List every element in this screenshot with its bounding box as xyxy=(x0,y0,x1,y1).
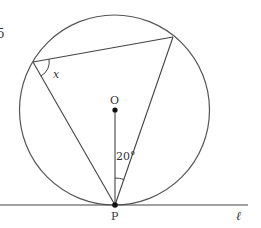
center-point-o xyxy=(112,107,117,112)
chord-left-p xyxy=(33,62,115,205)
tangent-point-p xyxy=(112,202,118,208)
angle-x-arc xyxy=(41,59,49,76)
line-label-l: ℓ xyxy=(236,209,241,223)
angle-x-label: x xyxy=(53,68,60,81)
angle-20-arc xyxy=(115,178,124,180)
angle-20-label: 20° xyxy=(116,150,136,163)
tangent-point-label-p: P xyxy=(111,210,119,223)
center-label-o: O xyxy=(110,94,119,107)
corner-fragment-label: 5 xyxy=(0,27,5,41)
geometry-diagram: 5 O x 20° P ℓ xyxy=(0,0,261,228)
chord-left-top xyxy=(33,37,173,62)
